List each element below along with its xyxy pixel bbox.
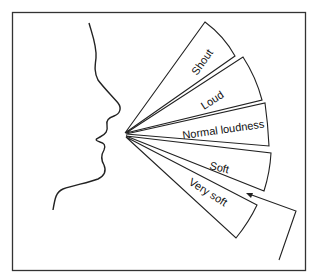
loudness-diagram: Shout Loud Normal loudness Soft Very sof… bbox=[0, 0, 318, 277]
